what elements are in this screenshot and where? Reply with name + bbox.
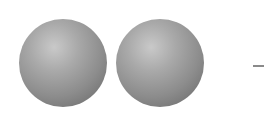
sphere-right (116, 19, 204, 107)
diagram-canvas (0, 0, 264, 123)
sphere-left (19, 19, 107, 107)
dash-line (253, 65, 264, 67)
